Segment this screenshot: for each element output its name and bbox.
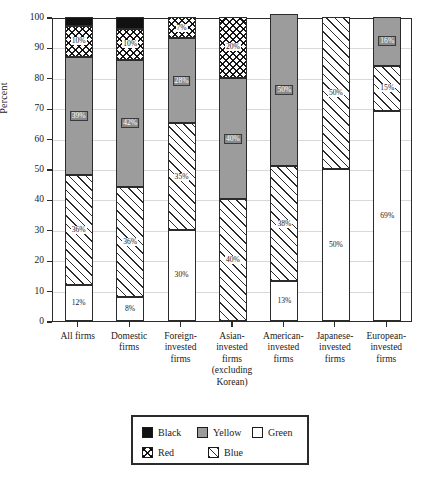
legend-swatch-black	[142, 427, 153, 438]
bar-segment-green[interactable]: 12%	[65, 285, 93, 321]
y-tick-label: 40	[2, 195, 44, 205]
legend: BlackYellowGreenRedBlue	[131, 415, 309, 465]
x-tick-mark	[386, 322, 387, 327]
bar-segment-value: 16%	[378, 36, 396, 46]
bar-segment-value: 7%	[175, 24, 187, 32]
bar-segment-green[interactable]: 30%	[168, 230, 196, 321]
bar-segment-yellow[interactable]: 50%	[270, 14, 298, 166]
bar-segment-yellow[interactable]: 42%	[116, 60, 144, 188]
y-tick-label: 100	[2, 13, 44, 23]
legend-swatch-red	[142, 447, 153, 458]
bar-segment-value: 39%	[70, 111, 88, 121]
legend-swatch-blue	[208, 447, 219, 458]
x-tick-mark	[283, 322, 284, 327]
legend-item-green[interactable]: Green	[252, 427, 298, 438]
bar-segment-value: 35%	[174, 173, 190, 181]
bar-segment-value: 40%	[224, 134, 242, 144]
x-axis-label-line: invested	[355, 342, 418, 353]
bar-segment-value: 50%	[328, 241, 344, 249]
y-tick-label: 60	[2, 135, 44, 145]
bar-segment-blue[interactable]: 15%	[373, 66, 401, 112]
y-tick-label: 0	[2, 317, 44, 327]
y-tick-label: 10	[2, 287, 44, 297]
y-tick-label: 50	[2, 165, 44, 175]
x-tick-mark	[180, 322, 181, 327]
bar-segment-red[interactable]: 20%	[219, 17, 247, 78]
bar-column: 13%38%50%	[259, 19, 310, 321]
bar-segment-red[interactable]: 7%	[168, 17, 196, 38]
legend-swatch-yellow	[197, 427, 208, 438]
bar-segment-blue[interactable]: 35%	[168, 123, 196, 229]
stacked-bar[interactable]: 50%50%	[322, 19, 350, 321]
bar-segment-green[interactable]: 50%	[322, 169, 350, 321]
bar-segment-value: 10%	[122, 40, 138, 48]
y-tick-label: 70	[2, 104, 44, 114]
legend-swatch-green	[252, 427, 263, 438]
bar-segment-blue[interactable]: 38%	[270, 166, 298, 282]
bar-segment-green[interactable]: 69%	[373, 111, 401, 321]
bar-segment-green[interactable]: 8%	[116, 297, 144, 321]
y-tick-label: 80	[2, 74, 44, 84]
stacked-bar[interactable]: 12%36%39%10%	[65, 19, 93, 321]
y-tick-label: 20	[2, 256, 44, 266]
bar-segment-value: 12%	[71, 299, 87, 307]
legend-row: BlackYellowGreen	[142, 422, 307, 442]
x-tick-mark	[334, 322, 335, 327]
plot-area: 12%36%39%10%8%36%42%10%30%35%28%7%40%40%…	[52, 18, 412, 322]
bar-segment-yellow[interactable]: 28%	[168, 38, 196, 123]
bar-segment-value: 36%	[71, 226, 87, 234]
x-axis-label: European-investedfirms	[355, 331, 418, 365]
x-axis-label-line: European-	[355, 331, 418, 342]
stacked-bar[interactable]: 69%15%16%	[373, 19, 401, 321]
bar-segment-value: 28%	[173, 76, 191, 86]
bar-segment-value: 69%	[379, 212, 395, 220]
x-tick-mark	[77, 322, 78, 327]
bar-segment-value: 15%	[379, 84, 395, 92]
bar-segment-value: 42%	[121, 118, 139, 128]
x-tick-mark	[231, 322, 232, 327]
bar-column: 50%50%	[310, 19, 361, 321]
legend-item-red[interactable]: Red	[142, 447, 199, 458]
bar-segment-blue[interactable]: 36%	[65, 175, 93, 284]
legend-row: RedBlue	[142, 442, 307, 462]
bar-segment-value: 30%	[174, 271, 190, 279]
stacked-bar[interactable]: 30%35%28%7%	[168, 19, 196, 321]
bar-segment-value: 8%	[124, 305, 136, 313]
bar-segment-blue[interactable]: 50%	[322, 17, 350, 169]
bar-segment-black[interactable]	[65, 17, 93, 26]
x-axis-label-line: (excluding	[200, 365, 263, 376]
bar-column: 30%35%28%7%	[156, 19, 207, 321]
bar-segment-red[interactable]: 10%	[65, 26, 93, 56]
bar-column: 8%36%42%10%	[104, 19, 155, 321]
bar-segment-yellow[interactable]: 39%	[65, 57, 93, 176]
bar-segment-yellow[interactable]: 40%	[219, 78, 247, 200]
bar-segment-black[interactable]	[116, 17, 144, 29]
legend-item-blue[interactable]: Blue	[208, 447, 265, 458]
stacked-bar[interactable]: 40%40%20%	[219, 19, 247, 321]
bar-segment-value: 40%	[225, 256, 241, 264]
y-tick-label: 90	[2, 43, 44, 53]
x-tick-mark	[129, 322, 130, 327]
y-tick-label: 30	[2, 226, 44, 236]
bar-segment-green[interactable]: 13%	[270, 281, 298, 321]
bar-segment-red[interactable]: 10%	[116, 29, 144, 59]
bar-segment-yellow[interactable]: 16%	[373, 17, 401, 66]
bar-column: 40%40%20%	[207, 19, 258, 321]
legend-label: Red	[158, 447, 174, 458]
y-axis-title: Percent	[0, 58, 9, 138]
legend-item-black[interactable]: Black	[142, 427, 188, 438]
bar-segment-blue[interactable]: 36%	[116, 187, 144, 296]
stacked-bar[interactable]: 13%38%50%	[270, 19, 298, 321]
bar-segment-value: 50%	[328, 89, 344, 97]
stacked-bar[interactable]: 8%36%42%10%	[116, 19, 144, 321]
bar-segment-value: 50%	[275, 85, 293, 95]
legend-label: Yellow	[213, 427, 241, 438]
bar-segment-value: 36%	[122, 238, 138, 246]
legend-item-yellow[interactable]: Yellow	[197, 427, 243, 438]
legend-label: Blue	[224, 447, 243, 458]
x-axis-label-line: Korean)	[200, 377, 263, 388]
legend-label: Black	[158, 427, 181, 438]
bar-segment-blue[interactable]: 40%	[219, 199, 247, 321]
bar-column: 69%15%16%	[362, 19, 413, 321]
legend-label: Green	[268, 427, 292, 438]
